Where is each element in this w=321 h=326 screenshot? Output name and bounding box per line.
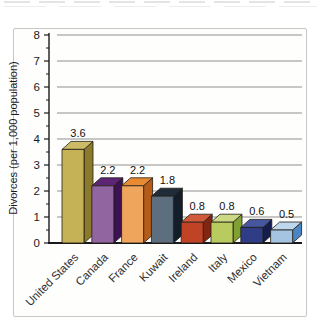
bar-front-ireland <box>181 222 203 243</box>
divorce-rate-3d-bar-chart: 012345678Divorces (per 1,000 population)… <box>0 0 321 326</box>
y-tick-label-4: 4 <box>34 133 41 145</box>
category-label-vietnam: Vietnam <box>251 251 289 289</box>
value-label-united-states: 3.6 <box>70 127 85 139</box>
bar-front-vietnam <box>271 230 293 243</box>
bar-front-kuwait <box>151 196 173 243</box>
y-tick-label-2: 2 <box>34 185 40 197</box>
y-axis-title: Divorces (per 1,000 population) <box>7 61 19 214</box>
category-label-kuwait: Kuwait <box>137 250 170 283</box>
value-label-kuwait: 1.8 <box>160 174 175 186</box>
value-label-vietnam: 0.5 <box>279 208 294 220</box>
y-tick-label-6: 6 <box>34 81 40 93</box>
y-tick-label-5: 5 <box>34 107 40 119</box>
value-label-italy: 0.8 <box>219 200 234 212</box>
y-tick-label-7: 7 <box>34 55 40 67</box>
category-label-canada: Canada <box>73 251 110 288</box>
bar-front-mexico <box>241 227 263 243</box>
bar-front-united-states <box>62 149 84 243</box>
bar-front-italy <box>211 222 233 243</box>
bar-front-france <box>122 186 144 243</box>
value-label-france: 2.2 <box>130 164 145 176</box>
page: 012345678Divorces (per 1,000 population)… <box>0 0 321 326</box>
category-label-france: France <box>106 251 140 285</box>
y-tick-label-0: 0 <box>34 237 40 249</box>
bar-front-canada <box>92 186 114 243</box>
value-label-mexico: 0.6 <box>249 205 264 217</box>
y-tick-label-1: 1 <box>34 211 40 223</box>
category-label-italy: Italy <box>206 251 230 275</box>
y-tick-label-8: 8 <box>34 29 40 41</box>
value-label-canada: 2.2 <box>100 164 115 176</box>
category-label-ireland: Ireland <box>166 251 199 284</box>
y-tick-label-3: 3 <box>34 159 40 171</box>
value-label-ireland: 0.8 <box>190 200 205 212</box>
